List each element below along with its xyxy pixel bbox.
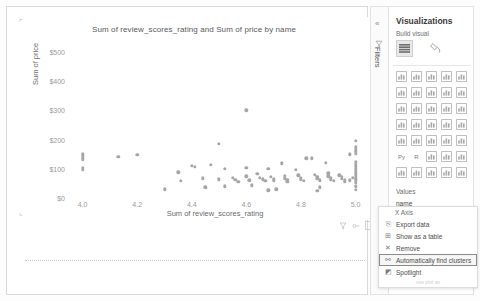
focus-mode-icon[interactable] (352, 222, 360, 230)
kpi-icon[interactable] (424, 133, 439, 148)
scatter-point[interactable] (247, 179, 250, 182)
filter-funnel-icon[interactable] (339, 222, 347, 230)
multi-row-card-icon[interactable] (409, 133, 424, 148)
scatter-point[interactable] (245, 166, 248, 169)
scatter-point[interactable] (316, 189, 319, 192)
scatter-point[interactable] (286, 180, 289, 183)
scatter-point[interactable] (209, 163, 212, 166)
map-icon[interactable] (409, 117, 424, 132)
r-script-visual-icon[interactable]: R (409, 149, 424, 164)
scatter-point[interactable] (245, 175, 248, 178)
scatter-point[interactable] (179, 179, 182, 182)
field-context-menu[interactable]: X Axis ⎘Export data⊞Show as a table✕Remo… (378, 206, 478, 288)
scatter-point[interactable] (310, 157, 313, 160)
scatter-point[interactable] (305, 157, 308, 160)
ribbon-chart-icon[interactable] (394, 101, 409, 116)
scatter-point[interactable] (343, 180, 346, 183)
scatter-point[interactable] (136, 153, 139, 156)
funnel-icon[interactable] (439, 117, 454, 132)
scatter-point[interactable] (354, 188, 357, 191)
scatter-chart-visual[interactable]: Sum of review_scores_rating and Sum of p… (17, 17, 371, 220)
hundred-percent-stacked-bar-icon[interactable] (454, 69, 469, 84)
scatter-point[interactable] (354, 139, 357, 142)
line-chart-icon[interactable] (394, 85, 409, 100)
scatter-point[interactable] (116, 155, 119, 158)
context-menu-item[interactable]: ✕Remove (379, 242, 477, 254)
scatter-point[interactable] (354, 152, 357, 155)
python-visual-icon[interactable]: Py (394, 149, 409, 164)
scatter-point[interactable] (223, 185, 226, 188)
line-and-stacked-column-icon[interactable] (439, 85, 454, 100)
scatter-point[interactable] (236, 180, 239, 183)
treemap-icon[interactable] (394, 117, 409, 132)
scatter-point[interactable] (267, 189, 270, 192)
line-and-clustered-column-icon[interactable] (454, 85, 469, 100)
context-menu-item[interactable]: ⊞Show as a table (379, 230, 477, 242)
visual-corner-handle-bottom-left[interactable]: ⌞ (19, 209, 23, 217)
narrative-icon[interactable] (439, 149, 454, 164)
scatter-point[interactable] (245, 109, 248, 112)
matrix-icon[interactable] (454, 133, 469, 148)
report-canvas[interactable]: Sum of review_scores_rating and Sum of p… (6, 6, 368, 295)
collapse-pane-icon[interactable]: « (375, 19, 379, 28)
scatter-point[interactable] (348, 179, 351, 182)
scatter-point[interactable] (267, 167, 270, 170)
context-menu-item[interactable]: ⎘Export data (379, 218, 477, 230)
stacked-area-chart-icon[interactable] (424, 85, 439, 100)
paginated-report-icon[interactable] (454, 149, 469, 164)
smart-narrative-icon[interactable] (409, 165, 424, 180)
scatter-point[interactable] (223, 167, 226, 170)
scatter-point[interactable] (302, 179, 305, 182)
scatter-point[interactable] (176, 171, 179, 174)
x-axis-tick: 4.0 (78, 201, 88, 208)
scatter-point[interactable] (275, 188, 278, 191)
scatter-point[interactable] (81, 158, 84, 161)
scatter-point[interactable] (217, 178, 220, 181)
stacked-bar-chart-icon[interactable] (394, 69, 409, 84)
card-icon[interactable] (394, 133, 409, 148)
pie-chart-icon[interactable] (439, 101, 454, 116)
context-menu-item[interactable]: ⚯Automatically find clusters (379, 254, 477, 266)
stacked-column-chart-icon[interactable] (409, 69, 424, 84)
context-menu-item[interactable]: ◩Spotlight (379, 266, 477, 278)
gauge-icon[interactable] (454, 117, 469, 132)
scatter-point[interactable] (332, 179, 335, 182)
x-axis-title[interactable]: Sum of review_scores_rating (69, 209, 361, 218)
scatter-point[interactable] (193, 165, 196, 168)
plot-area[interactable]: $0$100$200$300$400$5004.04.24.44.64.85.0 (69, 43, 361, 198)
visual-type-gallery[interactable]: PyR (394, 69, 472, 180)
filters-pane-label[interactable]: Filters (373, 47, 382, 67)
scatter-point[interactable] (318, 186, 321, 189)
waterfall-chart-icon[interactable] (409, 101, 424, 116)
area-chart-icon[interactable] (409, 85, 424, 100)
clustered-bar-chart-icon[interactable] (424, 69, 439, 84)
scatter-chart-icon[interactable] (424, 101, 439, 116)
scatter-point[interactable] (324, 161, 327, 164)
table-icon[interactable] (439, 133, 454, 148)
clustered-column-chart-icon[interactable] (439, 69, 454, 84)
key-influencers-icon[interactable] (424, 149, 439, 164)
build-visual-tabs[interactable] (396, 40, 444, 57)
scatter-point[interactable] (264, 179, 267, 182)
decomposition-tree-icon[interactable] (394, 165, 409, 180)
more-options-icon[interactable] (454, 165, 469, 180)
q-and-a-icon[interactable] (424, 165, 439, 180)
scatter-point[interactable] (294, 168, 297, 171)
y-axis-tick: $500 (49, 48, 65, 55)
build-visual-fields-icon[interactable] (396, 40, 413, 57)
scatter-point[interactable] (318, 179, 321, 182)
scatter-point[interactable] (81, 168, 84, 171)
scatter-point[interactable] (280, 162, 283, 165)
scatter-point[interactable] (204, 186, 207, 189)
scatter-point[interactable] (348, 152, 351, 155)
get-more-visuals-icon[interactable] (439, 165, 454, 180)
scatter-point[interactable] (217, 142, 220, 145)
scatter-point[interactable] (272, 179, 275, 182)
filled-map-icon[interactable] (424, 117, 439, 132)
donut-chart-icon[interactable] (454, 101, 469, 116)
scatter-point[interactable] (250, 183, 253, 186)
build-visual-format-icon[interactable] (427, 40, 444, 57)
scatter-point[interactable] (163, 188, 166, 191)
scatter-point[interactable] (201, 176, 204, 179)
visual-corner-handle-top-left[interactable]: ⌜ (19, 19, 23, 27)
